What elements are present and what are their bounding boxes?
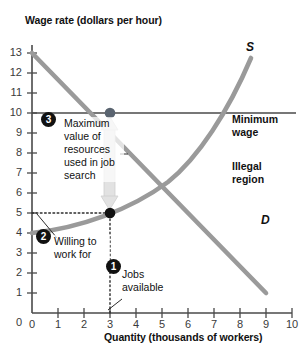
minimum-wage-label-line1: Minimum [232, 113, 278, 126]
y-tick-label-11: 11 [2, 86, 22, 98]
x-tick-label-2: 2 [74, 318, 94, 330]
y-tick-label-10: 10 [2, 106, 22, 118]
callout-3-badge: 3 [41, 112, 56, 127]
illegal-region-label-line1: Illegal [232, 160, 264, 173]
x-tick-label-5: 5 [152, 318, 172, 330]
willing-to-work-marker [105, 208, 116, 219]
y-tick-label-4: 4 [2, 226, 22, 238]
y-tick-label-6: 6 [2, 186, 22, 198]
y-tick-label-13: 13 [2, 46, 22, 58]
y-axis-title: Wage rate (dollars per hour) [25, 14, 162, 26]
callout-3-text: Maximum value of resources used in job s… [64, 117, 124, 182]
callout-1-text: Jobs available [122, 268, 178, 294]
y-tick-label-12: 12 [2, 66, 22, 78]
x-tick-label-9: 9 [256, 318, 276, 330]
y-tick-label-9: 9 [2, 126, 22, 138]
callout-2-text: Willing to work for [54, 235, 110, 261]
y-tick-label-7: 7 [2, 166, 22, 178]
y-tick-label-5: 5 [2, 206, 22, 218]
wage-rate-chart: Wage rate (dollars per hour) Quantity (t… [0, 0, 302, 355]
demand-curve-label: D [261, 213, 270, 227]
x-tick-label-10: 10 [282, 318, 302, 330]
y-tick-label-3: 3 [2, 246, 22, 258]
x-tick-label-1: 1 [48, 318, 68, 330]
illegal-region-label-line2: region [232, 173, 264, 186]
minimum-wage-label: Minimum wage [232, 113, 278, 138]
y-tick-label-0: 0 [2, 316, 22, 328]
illegal-region-label: Illegal region [232, 160, 264, 185]
x-tick-label-7: 7 [204, 318, 224, 330]
x-tick-label-8: 8 [230, 318, 250, 330]
x-tick-label-6: 6 [178, 318, 198, 330]
callout-1-badge: 1 [106, 259, 121, 274]
x-tick-label-0: 0 [22, 318, 42, 330]
x-tick-label-4: 4 [126, 318, 146, 330]
minimum-wage-label-line2: wage [232, 126, 278, 139]
x-tick-label-3: 3 [100, 318, 120, 330]
supply-curve-label: S [246, 40, 254, 54]
y-tick-label-8: 8 [2, 146, 22, 158]
callout-2-badge: 2 [36, 229, 51, 244]
y-tick-label-2: 2 [2, 266, 22, 278]
x-axis-title: Quantity (thousands of workers) [104, 331, 263, 343]
y-tick-label-1: 1 [2, 286, 22, 298]
